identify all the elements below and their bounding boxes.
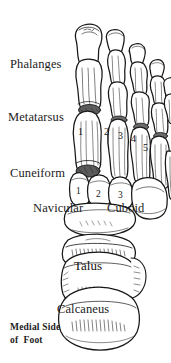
metatarsal-number-5: 5	[143, 142, 148, 153]
label-medial-side-line1: Medial Side	[10, 323, 61, 333]
metatarsal-number-2: 2	[104, 126, 109, 137]
bone-toe2-proximal-phalanx	[109, 82, 128, 124]
label-cuneiform: Cuneiform	[10, 167, 65, 180]
bone-calcaneus	[59, 287, 140, 350]
bone-hallux-proximal-phalanx	[76, 59, 102, 116]
metatarsal-number-4: 4	[131, 133, 136, 144]
cuneiform-number-2: 2	[96, 189, 101, 199]
foot-bones-figure: Phalanges Metatarsus Cuneiform Navicular…	[0, 0, 171, 363]
bone-toe3-middle-phalanx	[131, 62, 148, 96]
label-metatarsus: Metatarsus	[8, 111, 64, 124]
cuneiform-number-3: 3	[118, 190, 123, 200]
label-phalanges: Phalanges	[10, 58, 62, 71]
label-talus: Talus	[74, 258, 102, 274]
metatarsal-number-3: 3	[118, 130, 123, 141]
bone-metatarsal-2	[108, 119, 128, 181]
label-calcaneus: Calcaneus	[57, 303, 109, 316]
bone-toe2-middle-phalanx	[108, 50, 126, 86]
label-medial-side-line2: of Foot	[10, 336, 43, 346]
label-navicular: Navicular	[33, 202, 83, 215]
label-cuboid: Cuboid	[107, 202, 144, 215]
cuneiform-number-1: 1	[76, 186, 81, 196]
metatarsal-number-1: 1	[78, 126, 83, 137]
bone-toe3-proximal-phalanx	[132, 92, 150, 131]
bone-metatarsal-1	[73, 111, 101, 177]
